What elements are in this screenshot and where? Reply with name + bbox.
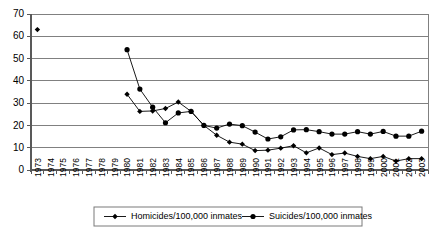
series-1 (35, 27, 425, 164)
x-axis-label: 1996 (327, 158, 337, 177)
data-point (252, 148, 257, 153)
x-axis-label: 1981 (135, 158, 145, 177)
x-axis-label: 1992 (276, 158, 286, 177)
x-axis-label: 1984 (174, 158, 184, 177)
data-point (163, 106, 168, 111)
data-point (214, 126, 219, 131)
x-axis-label: 1973 (33, 158, 43, 177)
data-point (368, 132, 373, 137)
data-point (316, 145, 321, 150)
data-point (329, 152, 334, 157)
data-point (342, 132, 347, 137)
x-axis-label: 2000 (379, 158, 389, 177)
x-axis-label: 1979 (110, 158, 120, 177)
x-axis-label: 1991 (263, 158, 273, 177)
data-point (124, 47, 129, 52)
line-chart: 0102030405060701973197419751976197719781… (0, 0, 436, 235)
x-axis-label: 1985 (186, 158, 196, 177)
data-point (317, 129, 322, 134)
y-axis-label: 70 (13, 8, 25, 19)
data-point (265, 136, 270, 141)
data-point (201, 123, 206, 128)
data-point (253, 130, 258, 135)
x-axis-label: 1987 (212, 158, 222, 177)
data-point (278, 134, 283, 139)
x-axis-label: 1995 (315, 158, 325, 177)
y-axis-label: 40 (13, 75, 25, 86)
data-point (381, 129, 386, 134)
data-point (304, 150, 309, 155)
y-axis-label: 30 (13, 97, 25, 108)
x-axis-label: 1980 (122, 158, 132, 177)
data-point (137, 87, 142, 92)
data-point (240, 123, 245, 128)
x-axis-label: 1990 (251, 158, 261, 177)
x-axis-label: 1978 (97, 158, 107, 177)
legend-marker (250, 214, 255, 219)
data-point (150, 105, 155, 110)
data-point (188, 109, 193, 114)
y-axis-label: 60 (13, 30, 25, 41)
y-axis-label: 50 (13, 53, 25, 64)
legend-label: Suicides/100,000 inmates (269, 211, 373, 221)
data-point (163, 120, 168, 125)
x-axis-label: 1993 (289, 158, 299, 177)
data-point (355, 129, 360, 134)
data-point (265, 147, 270, 152)
data-point (227, 139, 232, 144)
data-point (176, 110, 181, 115)
data-point (342, 150, 347, 155)
data-point (240, 141, 245, 146)
x-axis-label: 1997 (340, 158, 350, 177)
data-point (35, 27, 40, 32)
data-point (278, 145, 283, 150)
y-axis-label: 10 (13, 142, 25, 153)
x-axis-label: 1994 (302, 158, 312, 177)
x-axis-label: 1986 (199, 158, 209, 177)
x-axis-label: 1976 (71, 158, 81, 177)
series-2 (124, 47, 424, 142)
data-point (419, 129, 424, 134)
x-axis-label: 1989 (238, 158, 248, 177)
data-point (304, 127, 309, 132)
x-axis-label: 1988 (225, 158, 235, 177)
x-axis-label: 1974 (46, 158, 56, 177)
x-axis-label: 1975 (58, 158, 68, 177)
chart-container: 0102030405060701973197419751976197719781… (0, 0, 436, 235)
series-line (127, 94, 422, 161)
data-point (329, 132, 334, 137)
data-point (227, 121, 232, 126)
x-axis-label: 1977 (84, 158, 94, 177)
data-point (393, 134, 398, 139)
x-axis-label: 1998 (353, 158, 363, 177)
plot-area-frame (31, 14, 428, 170)
y-axis-label: 0 (18, 164, 24, 175)
x-axis-label: 1982 (148, 158, 158, 177)
x-axis-label: 1983 (161, 158, 171, 177)
y-axis-label: 20 (13, 120, 25, 131)
legend-label: Homicides/100,000 inmates (131, 211, 243, 221)
data-point (406, 134, 411, 139)
data-point (291, 127, 296, 132)
